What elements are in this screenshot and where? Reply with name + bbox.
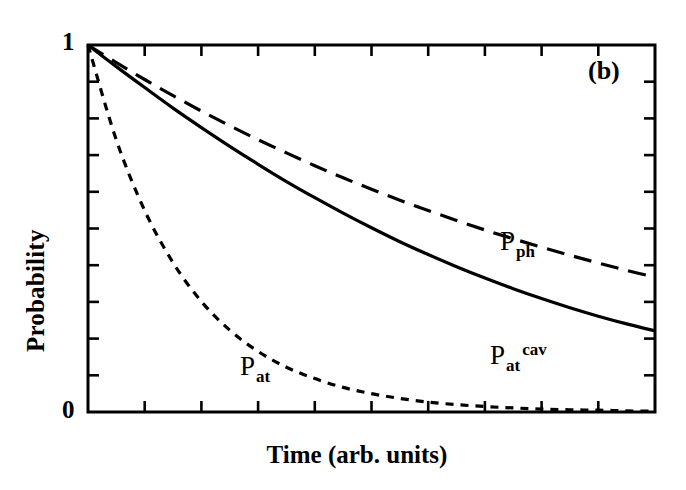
y-axis-tick-label-max: 1	[62, 28, 75, 56]
curve-label-p-at-cav-superscript: cav	[522, 340, 547, 359]
x-axis-title: Time (arb. units)	[0, 441, 686, 469]
curve-label-p-ph-subscript: ph	[516, 242, 535, 261]
curve-label-p-ph: Pph	[500, 226, 535, 262]
curve-label-p-at-subscript: at	[256, 367, 270, 386]
curve-label-p-at-cav: Patcav	[490, 340, 547, 376]
figure-panel-b: 1 0 Probability Time (arb. units) (b) Pp…	[0, 0, 686, 490]
y-axis-title: Probability	[22, 229, 50, 352]
curve-label-p-at-cav-base: P	[490, 340, 505, 370]
y-axis-tick-label-min: 0	[62, 396, 75, 424]
data-curves	[88, 45, 655, 411]
curve-label-p-at: Pat	[240, 351, 270, 387]
curve-label-p-at-base: P	[240, 351, 255, 381]
plot-canvas	[0, 0, 686, 490]
curve-p-ph	[88, 45, 655, 277]
curve-label-p-at-cav-subscript: at	[506, 356, 520, 375]
curve-label-p-ph-base: P	[500, 226, 515, 256]
panel-label-b: (b)	[588, 56, 620, 86]
